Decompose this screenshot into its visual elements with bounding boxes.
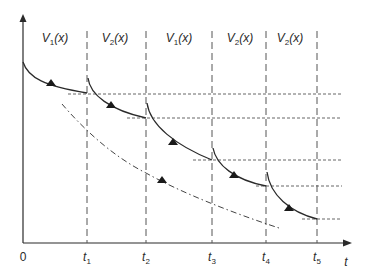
switching-lines: [87, 31, 317, 243]
func: V: [227, 31, 235, 45]
tick-sub: 5: [316, 257, 320, 266]
func: V: [102, 31, 110, 45]
bound-curve: [62, 104, 279, 228]
tick-label-t5: t5: [313, 250, 321, 266]
x-axis-arrow-icon: [343, 240, 352, 247]
region-label-2: V2(x): [102, 31, 128, 47]
arg: (x): [239, 31, 253, 45]
tick-sub: 3: [211, 257, 215, 266]
tick-label-t4: t4: [262, 250, 270, 266]
x-axis-label: t: [344, 255, 347, 269]
segment-3: [147, 103, 212, 160]
origin-label: 0: [20, 250, 27, 264]
segment-4: [213, 148, 266, 186]
func: V: [166, 31, 174, 45]
region-label-4: V2(x): [227, 31, 253, 47]
arg: (x): [54, 31, 68, 45]
tick-sub: 4: [265, 257, 269, 266]
y-axis-arrow-icon: [20, 14, 27, 22]
func: V: [42, 31, 50, 45]
segment-5: [267, 172, 317, 219]
region-label-5: V2(x): [277, 31, 303, 47]
arrow-icon: [46, 79, 56, 86]
arg: (x): [114, 31, 128, 45]
tick-sub: 2: [145, 257, 149, 266]
direction-arrows: [46, 79, 294, 211]
region-label-1: V1(x): [42, 31, 68, 47]
arg: (x): [178, 31, 192, 45]
tick-label-t1: t1: [83, 250, 91, 266]
func: V: [277, 31, 285, 45]
switched-lyapunov-diagram: V1(x) V2(x) V1(x) V2(x) V2(x) 0 t1 t2 t3…: [0, 0, 367, 273]
arg: (x): [289, 31, 303, 45]
arrow-icon: [106, 101, 116, 108]
arrow-icon: [284, 204, 294, 211]
axes: [23, 20, 344, 243]
tick-label-t2: t2: [142, 250, 150, 266]
segment-1: [23, 62, 87, 93]
lyapunov-trajectory: [23, 62, 317, 219]
region-label-3: V1(x): [166, 31, 192, 47]
tick-sub: 1: [86, 257, 90, 266]
segment-2: [88, 78, 146, 118]
tick-label-t3: t3: [208, 250, 216, 266]
